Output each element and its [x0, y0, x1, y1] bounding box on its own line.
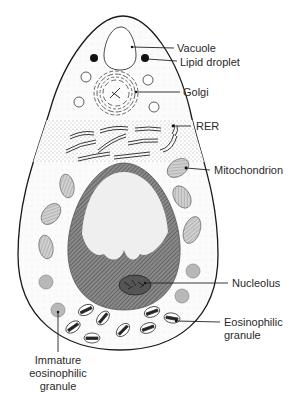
lipid-droplet [141, 54, 149, 62]
label-immature-3: granule [40, 380, 77, 392]
rer-region [0, 120, 304, 162]
label-lipid-droplet: Lipid droplet [180, 56, 240, 68]
lipid-droplet [90, 54, 98, 62]
label-immature-1: Immature [35, 354, 81, 366]
label-vacuole: Vacuole [177, 42, 216, 54]
label-mitochondrion: Mitochondrion [214, 164, 283, 176]
immature-eosinophilic-granule [39, 275, 53, 289]
label-rer: RER [196, 120, 219, 132]
label-eosinophilic-granule-1: Eosinophilic [224, 316, 283, 328]
label-immature-2: eosinophilic [29, 367, 87, 379]
eosinophil-cell-diagram: Vacuole Lipid droplet Golgi RER Mitochon… [0, 0, 304, 400]
label-eosinophilic-granule-2: granule [224, 329, 261, 341]
label-nucleolus: Nucleolus [232, 277, 281, 289]
label-golgi: Golgi [183, 86, 209, 98]
